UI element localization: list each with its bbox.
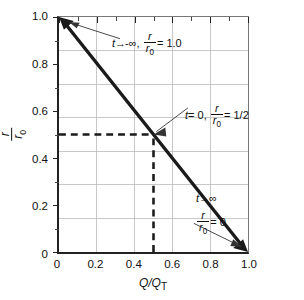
annotation-separator: , (137, 37, 140, 49)
y-tick-mark (53, 252, 59, 253)
x-tick-label: 0 (35, 258, 79, 270)
y-tick-mark-minor (55, 41, 59, 42)
x-tick-mark (135, 17, 136, 23)
x-tick-label: 0.2 (73, 258, 117, 270)
y-tick-mark-minor (55, 182, 59, 183)
annotation-r-over-r0-zero: rr0= 0 (196, 210, 226, 237)
y-axis-title: r r0 (0, 127, 28, 142)
annotation-limit-value: -∞ (125, 37, 137, 49)
x-tick-mark-minor (116, 17, 117, 21)
leader-line-t-equals-zero (156, 108, 188, 132)
y-axis-title-fraction: r r0 (0, 128, 27, 141)
y-tick-mark (53, 205, 59, 206)
x-tick-mark (248, 17, 249, 23)
x-axis-tick-labels: 0 0.2 0.4 0.6 0.8 1.0 (57, 258, 249, 276)
y-tick-mark (53, 64, 59, 65)
x-tick-label: 0.4 (112, 258, 156, 270)
x-axis-title-denominator-sub: T (161, 281, 167, 292)
y-tick-label: 0.8 (32, 58, 48, 70)
y-tick-mark-minor (55, 229, 59, 230)
chart-figure: 1.0 0.8 0.6 0.4 0.2 0 0 0.2 0.4 0.6 0.8 … (0, 0, 304, 300)
x-tick-label: 0.8 (189, 258, 233, 270)
y-tick-mark-minor (55, 135, 59, 136)
y-tick-label: 0.2 (32, 200, 48, 212)
y-tick-label: 0.4 (32, 153, 48, 165)
x-tick-mark (172, 17, 173, 23)
x-tick-mark (97, 17, 98, 23)
leader-arrowhead-r-zero (230, 239, 242, 247)
annotation-t-equals-zero: t= 0, rr0= 1/2 (185, 103, 249, 130)
annotation-arrow-glyph: → (199, 192, 209, 204)
x-axis-title: Q/QT (57, 276, 249, 292)
annotation-fraction: rr0 (211, 103, 223, 130)
y-tick-mark (53, 158, 59, 159)
y-tick-mark-minor (55, 88, 59, 89)
annotation-equals: = 1.0 (157, 37, 182, 49)
annotation-limit-value: ∞ (209, 192, 217, 204)
x-tick-mark-minor (191, 17, 192, 21)
x-axis-title-numerator: Q (139, 276, 148, 290)
annotation-t-plus-infinity: t→∞ (196, 192, 217, 205)
x-tick-mark-minor (154, 17, 155, 21)
annotation-equals: = 0 (210, 216, 226, 228)
annotation-fraction: rr0 (144, 31, 156, 58)
annotation-fraction: rr0 (197, 210, 209, 237)
x-tick-mark-minor (229, 17, 230, 21)
x-tick-mark (210, 17, 211, 23)
y-axis-title-denominator: r0 (12, 128, 27, 141)
annotation-arrow-glyph: → (115, 37, 125, 49)
x-tick-mark-minor (78, 17, 79, 21)
x-tick-mark (59, 17, 60, 23)
x-axis-title-denominator: Q (152, 276, 161, 290)
annotation-equals: = 1/2 (224, 109, 249, 121)
annotation-t-minus-infinity: t→-∞, rr0= 1.0 (112, 31, 182, 58)
y-tick-label: 1.0 (32, 10, 48, 22)
leader-arrowhead-t-minus-infinity (69, 22, 80, 28)
x-tick-label: 1.0 (227, 258, 271, 270)
x-tick-label: 0.6 (150, 258, 194, 270)
annotation-equals-lhs: = 0, (188, 109, 207, 121)
y-tick-mark (53, 111, 59, 112)
y-tick-label: 0.6 (32, 105, 48, 117)
